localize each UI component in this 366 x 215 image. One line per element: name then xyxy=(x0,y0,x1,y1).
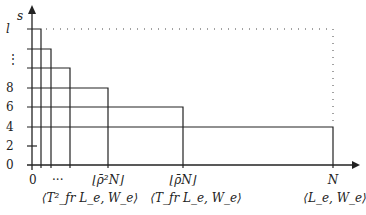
x-tick-N: N xyxy=(327,173,339,187)
y-tick-8: 8 xyxy=(6,81,14,95)
x-tick-dots: ··· xyxy=(52,173,63,187)
y-axis-label: s xyxy=(17,9,23,23)
y-tick-6: 6 xyxy=(6,100,14,114)
y-tick-vdots: ⋮ xyxy=(7,52,19,66)
x-tick-rho2N: ⌊ρ̄²N⌋ xyxy=(92,173,124,187)
x-axis-arrow-icon xyxy=(352,161,360,169)
boxes xyxy=(27,29,333,168)
x-sub-rhoN: ⟨T_fr L_e, W_e⟩ xyxy=(150,191,242,205)
y-tick-4: 4 xyxy=(6,120,14,134)
x-tick-rhoN: ⌊ρ̄N⌋ xyxy=(170,173,197,187)
x-sub-N: ⟨L_e, W_e⟩ xyxy=(303,191,366,205)
y-tick-l: l xyxy=(6,22,10,36)
y-tick-2: 2 xyxy=(6,139,14,153)
y-axis-arrow-icon xyxy=(28,5,36,14)
x-sub-rho2N: ⟨T²_fr L_e, W_e⟩ xyxy=(42,191,138,205)
y-tick-0: 0 xyxy=(6,158,14,172)
staircase-diagram: s l ⋮ 8 6 4 2 0 0 ··· ⌊ρ̄²N⌋ ⟨T²_fr L_e,… xyxy=(0,0,366,215)
x-tick-0: 0 xyxy=(29,173,37,187)
